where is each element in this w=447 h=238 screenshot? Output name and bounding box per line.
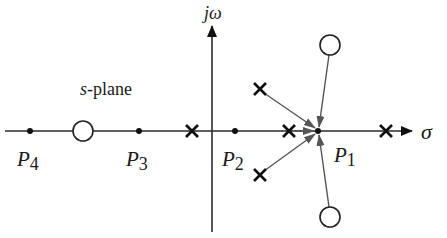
- vector-lower-pole: [264, 134, 315, 171]
- zero-marker: [320, 207, 340, 227]
- zero-marker: [73, 121, 93, 141]
- poles: [186, 83, 392, 181]
- vector-upper-pole: [264, 93, 315, 128]
- point-p3-dot: [136, 128, 142, 134]
- jw-axis-label: jω: [202, 3, 222, 23]
- point-p2-dot: [232, 128, 238, 134]
- pole-marker: [254, 83, 266, 95]
- vector-lower-zero: [319, 135, 329, 207]
- point-p1-label: P1: [333, 143, 356, 170]
- s-plane-label: s-plane: [80, 79, 132, 99]
- point-p1-dot: [315, 128, 321, 134]
- vector-upper-zero: [319, 55, 329, 127]
- zero-marker: [320, 35, 340, 55]
- point-p2-label: P2: [221, 147, 244, 174]
- point-p4-label: P4: [16, 147, 39, 174]
- point-p3-label: P3: [125, 147, 148, 174]
- s-plane-diagram: P4 P3 P2 P1 σ jω s-plane: [0, 0, 447, 238]
- point-p4-dot: [27, 128, 33, 134]
- sigma-axis-label: σ: [421, 119, 433, 144]
- pole-marker: [254, 169, 266, 181]
